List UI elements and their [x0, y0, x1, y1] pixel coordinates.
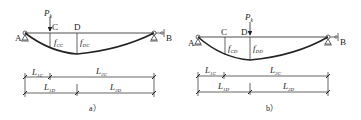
- dimension-label: L2C: [269, 65, 282, 76]
- deflection-curve: [198, 37, 328, 60]
- point-c-label: C: [221, 27, 227, 37]
- point-b-label: B: [340, 37, 346, 47]
- deflection-label: fCD: [228, 43, 238, 54]
- dimension-label: L2C: [95, 66, 108, 77]
- panel-b: [194, 22, 338, 96]
- load-label: Pk: [244, 12, 254, 23]
- deflection-label: fDD: [253, 43, 263, 54]
- deflection-label: fDC: [80, 37, 90, 48]
- point-a-label: A: [188, 38, 195, 48]
- point-c-label: C: [52, 22, 58, 32]
- panel-a-labels: Pk C D A B fCC fDC L1C L2C L1D L2D a）: [15, 8, 172, 113]
- point-d-label: D: [74, 22, 81, 32]
- panel-b-labels: Pk C D A B fCD fDD L1C L2C L1D L2D b）: [188, 12, 346, 113]
- dimension-label: L2D: [109, 82, 122, 93]
- dimension-label: L1D: [43, 82, 56, 93]
- dimension-label: L1D: [217, 81, 230, 92]
- load-label: Pk: [43, 8, 53, 19]
- dimension-label: L2D: [282, 81, 295, 92]
- deflection-curve: [25, 33, 154, 54]
- roller-support-b-icon: [150, 29, 164, 41]
- panel-caption: a）: [89, 104, 101, 113]
- dimension-label: L1C: [204, 65, 217, 76]
- point-b-label: B: [166, 33, 172, 43]
- point-a-label: A: [15, 33, 22, 43]
- roller-support-b-icon: [324, 33, 338, 45]
- panel-caption: b）: [266, 104, 278, 113]
- beam-deflection-diagram: Pk C D A B fCC fDC L1C L2C L1D L2D a）: [0, 0, 361, 120]
- panel-a: [21, 17, 164, 97]
- dimension-label: L1C: [31, 67, 44, 78]
- point-d-label: D: [241, 27, 248, 37]
- deflection-label: fCC: [54, 37, 64, 48]
